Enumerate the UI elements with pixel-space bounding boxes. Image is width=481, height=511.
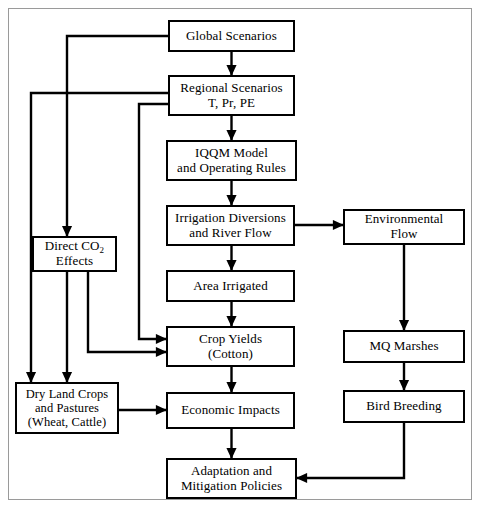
node-global-scenarios[interactable]: Global Scenarios (168, 20, 295, 52)
node-crop-yields[interactable]: Crop Yields (Cotton) (166, 326, 295, 367)
node-label: Dry Land Crops and Pastures (Wheat, Catt… (23, 387, 112, 429)
node-label: Area Irrigated (190, 279, 271, 294)
node-direct-co2-effects[interactable]: Direct CO2 Effects (32, 236, 117, 272)
node-regional-scenarios[interactable]: Regional Scenarios T, Pr, PE (168, 75, 295, 116)
edge-global-to-co2 (67, 36, 168, 236)
node-label: Regional Scenarios T, Pr, PE (177, 81, 286, 110)
node-label: MQ Marshes (366, 339, 441, 354)
edge-bird-to-adaptation (297, 423, 404, 478)
node-economic-impacts[interactable]: Economic Impacts (166, 392, 295, 429)
node-label-text-post: Effects (56, 253, 93, 268)
node-label: Environmental Flow (362, 212, 447, 241)
node-mq-marshes[interactable]: MQ Marshes (343, 330, 465, 363)
node-label: Bird Breeding (363, 399, 444, 414)
node-label: Adaptation and Mitigation Policies (178, 464, 285, 493)
node-irrigation-diversions[interactable]: Irrigation Diversions and River Flow (166, 205, 295, 246)
node-area-irrigated[interactable]: Area Irrigated (166, 270, 295, 302)
node-environmental-flow[interactable]: Environmental Flow (343, 209, 465, 245)
co2-subscript: 2 (100, 245, 105, 255)
node-label: IQQM Model and Operating Rules (174, 146, 289, 175)
node-label: Economic Impacts (178, 403, 283, 418)
node-label: Irrigation Diversions and River Flow (172, 211, 289, 240)
node-bird-breeding[interactable]: Bird Breeding (343, 390, 465, 423)
node-iqqm-model[interactable]: IQQM Model and Operating Rules (166, 140, 297, 181)
node-label: Direct CO2 Effects (42, 239, 107, 268)
node-dry-land-crops[interactable]: Dry Land Crops and Pastures (Wheat, Catt… (15, 382, 119, 434)
node-label: Crop Yields (Cotton) (196, 332, 265, 361)
node-label: Global Scenarios (183, 29, 280, 44)
flowchart-canvas: Global Scenarios Regional Scenarios T, P… (0, 0, 481, 511)
edge-regional-to-cropyields (139, 104, 168, 339)
node-adaptation-policies[interactable]: Adaptation and Mitigation Policies (166, 458, 297, 499)
node-label-text: Direct CO (45, 238, 100, 253)
